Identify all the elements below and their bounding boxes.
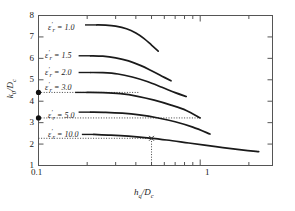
y-tick-label-3: 3 [22, 118, 34, 127]
x-axis-title-slash-D: /D [142, 187, 151, 197]
y-tick-label-8: 8 [22, 11, 34, 20]
y-tick-label-5: 5 [22, 75, 34, 84]
curve-label-value: 1.0 [65, 23, 75, 32]
x-axis-title-sub-c: c [151, 192, 154, 199]
curve-label-10.0: ε′r = 10.0 [48, 128, 79, 141]
equals-sign: = [55, 23, 64, 32]
x-tick-label-1: 1 [205, 168, 210, 177]
curve-label-3.0: ε′r = 3.0 [45, 81, 72, 94]
curve-label-value: 1.5 [62, 51, 72, 60]
y-tick-label-6: 6 [22, 54, 34, 63]
y-tick-label-4: 4 [22, 97, 34, 106]
curve-label-1.5: ε′r = 1.5 [45, 49, 72, 62]
curve-5.0 [91, 112, 210, 134]
equals-sign: = [52, 83, 61, 92]
y-axis-title-sub-c: c [10, 79, 17, 82]
y-axis-title-k: k [5, 94, 15, 98]
y-axis-marker-lower [36, 115, 41, 120]
curve-label-value: 3.0 [62, 83, 72, 92]
y-axis-ticks [39, 16, 273, 166]
curve-label-value: 2.0 [62, 68, 72, 77]
chart-figure: 8 7 6 5 4 3 2 1 0.1 1 hq/Dc k0/Dc ε′r = … [0, 0, 295, 211]
y-axis-title: k0/Dc [6, 66, 17, 112]
y-axis-title-slash-D: /D [5, 82, 15, 91]
x-axis-title: hq/Dc [134, 188, 154, 199]
equals-sign: = [55, 111, 64, 120]
data-curves [87, 25, 259, 152]
y-axis-title-sub-0: 0 [10, 91, 17, 94]
y-tick-label-2: 2 [22, 140, 34, 149]
y-tick-label-7: 7 [22, 32, 34, 41]
curve-label-1.0: ε′r = 1.0 [48, 21, 75, 34]
curve-10.0 [94, 134, 259, 151]
equals-sign: = [55, 130, 64, 139]
equals-sign: = [52, 51, 61, 60]
equals-sign: = [52, 68, 61, 77]
curve-label-2.0: ε′r = 2.0 [45, 66, 72, 79]
curve-label-5.0: ε′r = 5.0 [48, 109, 75, 122]
plot-canvas [0, 0, 295, 211]
plot-frame [39, 16, 273, 166]
x-tick-label-0.1: 0.1 [31, 168, 42, 177]
curve-1.0 [97, 25, 158, 51]
curve-label-value: 5.0 [65, 111, 75, 120]
curve-label-value: 10.0 [65, 130, 79, 139]
y-axis-marker-upper [36, 90, 41, 95]
